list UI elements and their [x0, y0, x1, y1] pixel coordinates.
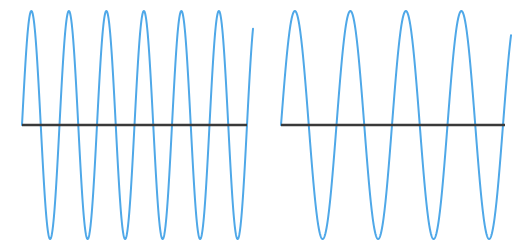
waveform-canvas — [0, 0, 521, 248]
waveform-figure — [0, 0, 521, 248]
